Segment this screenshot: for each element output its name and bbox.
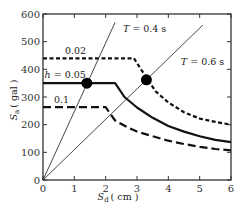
y-tick-label: 100 [21, 147, 40, 158]
annotation: 0.02 [65, 45, 86, 56]
y-tick-label: 200 [21, 119, 40, 130]
plot-area: 01234560100200300400500600T = 0.4 sT = 0… [21, 9, 234, 195]
x-tick-label: 4 [165, 183, 171, 194]
series-0-1 [43, 107, 231, 150]
series-h-0-05 [43, 83, 231, 142]
y-tick-label: 0 [34, 175, 40, 186]
x-tick-label: 0 [40, 183, 46, 194]
x-axis-label: Sd( cm ) [98, 191, 139, 204]
y-tick-label: 400 [21, 64, 40, 75]
annotation: 0.1 [54, 94, 69, 105]
series-0-02 [43, 58, 231, 124]
x-tick-label: 5 [196, 183, 202, 194]
y-tick-label: 600 [21, 9, 40, 20]
y-tick-label: 300 [21, 92, 40, 103]
annotation: T = 0.4 s [123, 23, 166, 34]
x-tick-label: 1 [71, 183, 77, 194]
annotation: T = 0.6 s [181, 56, 224, 67]
intersection-marker [141, 74, 152, 85]
annotation: h = 0.05 [45, 69, 86, 80]
y-axis-label: Sa( gal ) [8, 80, 21, 121]
x-tick-label: 6 [228, 183, 234, 194]
plot-frame [43, 14, 231, 180]
chart: 01234560100200300400500600T = 0.4 sT = 0… [0, 0, 241, 206]
y-tick-label: 500 [21, 36, 40, 47]
